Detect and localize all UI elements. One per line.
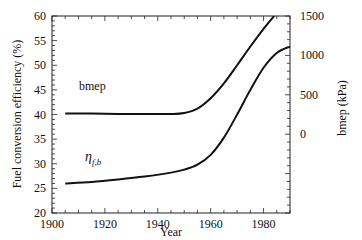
x-axis-ticks: 19001920194019601980 <box>40 16 290 231</box>
right-tick-label: 0 <box>300 127 306 141</box>
x-tick-label: 1920 <box>93 217 117 231</box>
eta-symbol: η <box>85 149 92 164</box>
right-axis-ticks: 050010001500 <box>285 9 324 213</box>
efficiency-bmep-chart: 19001920194019601980 202530354045505560 … <box>0 0 362 240</box>
y-tick-label: 55 <box>34 34 46 48</box>
right-axis-label: bmep (kPa) <box>335 80 349 136</box>
y-tick-label: 60 <box>34 9 46 23</box>
y-tick-label: 40 <box>34 108 46 122</box>
bmep-curve-label: bmep <box>79 79 106 93</box>
right-tick-label: 500 <box>300 88 318 102</box>
eta-subscript: f,b <box>92 157 102 167</box>
right-tick-label: 1000 <box>300 48 324 62</box>
y-axis-ticks: 202530354045505560 <box>34 9 57 220</box>
y-tick-label: 35 <box>34 132 46 146</box>
y-tick-label: 45 <box>34 83 46 97</box>
y-tick-label: 20 <box>34 206 46 220</box>
x-tick-label: 1960 <box>199 217 223 231</box>
y-tick-label: 25 <box>34 181 46 195</box>
eta-curve-label: ηf,b <box>85 149 102 167</box>
bmep-curve <box>65 16 274 114</box>
y-axis-label: Fuel conversion efficiency (%) <box>10 40 24 189</box>
x-tick-label: 1980 <box>252 217 276 231</box>
y-tick-label: 30 <box>34 157 46 171</box>
x-axis-label: Year <box>160 225 182 239</box>
y-tick-label: 50 <box>34 58 46 72</box>
right-tick-label: 1500 <box>300 9 324 23</box>
